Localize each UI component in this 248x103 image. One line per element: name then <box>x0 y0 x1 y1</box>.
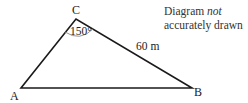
vertex-label-b: B <box>194 86 202 98</box>
vertex-label-a: A <box>10 90 19 102</box>
note-text: Diagram <box>164 5 207 17</box>
vertex-label-c: C <box>72 4 80 16</box>
not-to-scale-note: Diagram not accurately drawn <box>164 4 243 32</box>
note-text-line2: accurately drawn <box>164 18 243 32</box>
note-emphasis: not <box>207 5 222 17</box>
angle-label: 150° <box>70 25 92 37</box>
side-label-cb: 60 m <box>136 40 159 52</box>
